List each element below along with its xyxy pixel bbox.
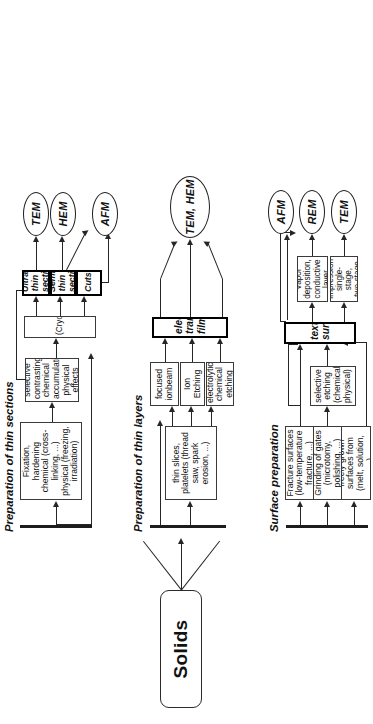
terminal-layers-tem-hem[interactable]: TEM, HEM (170, 176, 210, 238)
ultrathin-to-tem-arrow (33, 236, 39, 242)
textured-to-impression-arrow (341, 302, 347, 308)
node-selective-etching[interactable]: selective etching (chemical, physical) (310, 366, 356, 406)
terminal-surface-rem-label: REM (306, 193, 318, 231)
node-fracture-surfaces[interactable]: Fracture surfaces (low-temperature fract… (285, 426, 315, 500)
terminal-surface-afm[interactable]: AFM (268, 190, 294, 234)
node-focused-ionbeam[interactable]: focused ionbeam (150, 362, 179, 406)
node-impression[interactable]: Impression single-stage, two-stage (330, 256, 358, 302)
terminal-sections-afm-label: AFM (99, 195, 111, 233)
ionbeam-to-films-line (165, 344, 166, 362)
group-rule-sections (20, 525, 92, 528)
surface-fan-freely-arrow (351, 501, 357, 507)
layers-fan-ionbeam-arrow (157, 420, 163, 426)
flowchart-canvas: Solids Surface preparation Preparation o… (0, 0, 373, 724)
terminal-layers-tem-hem-label: TEM, HEM (184, 179, 196, 235)
terminal-sections-afm[interactable]: AFM (92, 192, 118, 236)
fracture-bypass-top-line (288, 344, 289, 406)
surface-fan-freely-line (354, 507, 355, 525)
microtomy-to-cuts-line (84, 302, 85, 316)
group-rule-layers (150, 525, 226, 528)
fracture-direct-arrow (297, 344, 303, 350)
grinding-to-etching-arrow (324, 406, 330, 412)
slices-to-electrolytic-arrow (208, 406, 214, 412)
terminal-sections-tem-label: TEM (30, 195, 42, 233)
node-ion-etching[interactable]: Ion Etching (180, 362, 205, 406)
node-ultra-thin-sections[interactable]: Ultra-thin sections (22, 270, 50, 296)
films-to-temhem-bot-line (222, 279, 223, 317)
node-focused-ionbeam-label: focused ionbeam (155, 365, 174, 403)
microtomy-to-semithin-arrow (57, 296, 63, 302)
node-thin-slices[interactable]: thin slices, platelets (thread saw, spar… (165, 426, 217, 500)
node-electron-transparent-films[interactable]: electron transparent films (152, 317, 228, 338)
node-fixation-hardening[interactable]: Fixation, hardening chemical (cross-link… (20, 422, 82, 500)
terminal-surface-tem[interactable]: TEM (331, 190, 357, 234)
terminal-surface-rem[interactable]: REM (299, 190, 325, 234)
fixation-to-contrasting-arrow (49, 402, 55, 408)
slices-to-ionetching-line (191, 412, 192, 426)
node-textured-surfaces-label: textured surfaces (309, 326, 332, 340)
node-textured-surfaces[interactable]: textured surfaces (284, 322, 356, 344)
textured-afm-line-2 (287, 240, 288, 320)
node-grinding-of-gates[interactable]: Grinding of gates (microtomy, polishing,… (313, 426, 343, 500)
grinding-to-etching-line (327, 412, 328, 426)
terminal-sections-tem[interactable]: TEM (23, 192, 49, 236)
microtomy-to-ultrathin-line (36, 302, 37, 316)
node-selective-contrasting[interactable]: selective contrasting: chemical accumula… (25, 358, 79, 402)
ionetching-to-films-line (192, 344, 193, 362)
impression-to-tem-line (344, 240, 345, 256)
node-electrolytic-etching-label: electrolytic chemical etching (206, 365, 234, 403)
vapor-to-rem-arrow (309, 234, 315, 240)
node-fracture-surfaces-label: Fracture surfaces (low-temperature fract… (286, 429, 315, 497)
ionetching-to-films-arrow (189, 338, 195, 344)
textured-afm-arrow-2 (284, 234, 290, 240)
sections-bypass-line (91, 359, 92, 525)
terminal-sections-hem[interactable]: HEM (50, 192, 76, 236)
node-cryo-ultramicrotomy-label: (Cryo)Ultramicrotomy (55, 319, 64, 335)
node-cryo-ultramicrotomy[interactable]: (Cryo)Ultramicrotomy (24, 316, 96, 338)
sections-fan-fixation-line (56, 507, 57, 525)
node-electron-transparent-films-label: electron transparent films (173, 321, 207, 334)
microtomy-to-semithin-line (60, 302, 61, 316)
semithin-to-hem-arrow (59, 236, 65, 242)
ionbeam-to-films-arrow (162, 338, 168, 344)
terminal-surface-tem-label: TEM (338, 193, 350, 231)
etching-to-textured-arrow (324, 344, 330, 350)
group-label-layers: Preparation of thin layers (132, 395, 144, 532)
textured-afm-arrow (290, 230, 296, 236)
node-cuts-label: Cuts (84, 274, 94, 292)
layers-fan-ionbeam-line (160, 426, 161, 525)
surface-fan-fracture-arrow (297, 501, 303, 507)
microtomy-to-ultrathin-arrow (33, 296, 39, 302)
root-node-solids[interactable]: Solids (160, 590, 202, 708)
sections-fan-fixation-arrow (53, 501, 59, 507)
fracture-direct-line (300, 350, 301, 426)
node-electrolytic-etching[interactable]: electrolytic chemical etching (206, 362, 234, 406)
contrasting-to-microtomy-arrow (53, 338, 59, 344)
node-freely-grown-surfaces[interactable]: freely grown surfaces from (melt, soluti… (341, 426, 371, 500)
surface-fan-grinding-line (327, 507, 328, 525)
etching-to-textured-line (327, 350, 328, 366)
node-vapor-deposition[interactable]: Vapor deposition, conductive layer (297, 256, 328, 302)
films-to-temhem-bot-diag (208, 244, 224, 280)
semithin-to-hem-line (62, 242, 63, 270)
node-semi-thin-sections[interactable]: Semi-thin sections (50, 270, 76, 296)
slices-to-ionbeam-arrow (169, 406, 175, 412)
node-fixation-hardening-label: Fixation, hardening chemical (cross-link… (22, 425, 80, 497)
slices-to-ionbeam-line (172, 412, 173, 426)
diagram-frame: Solids Surface preparation Preparation o… (0, 0, 373, 724)
node-vapor-deposition-label: Vapor deposition, conductive layer (297, 259, 328, 299)
ultrathin-to-tem-line (36, 242, 37, 270)
root-branch-layers-arrow (178, 538, 184, 544)
textured-to-vapor-line (312, 308, 313, 322)
node-thin-slices-label: thin slices, platelets (thread saw, spar… (172, 429, 211, 497)
terminal-sections-hem-label: HEM (57, 195, 69, 233)
root-branch-layers-line (181, 544, 182, 590)
group-label-sections: Preparation of thin sections (3, 381, 15, 532)
semithin-to-afm-diag (66, 232, 86, 270)
node-cuts[interactable]: Cuts (76, 270, 102, 296)
vapor-to-rem-line (312, 240, 313, 256)
contrasting-bypass-line (16, 290, 17, 380)
slices-to-electrolytic-line (211, 412, 212, 426)
slices-to-ionetching-arrow (188, 406, 194, 412)
node-grinding-of-gates-label: Grinding of gates (microtomy, polishing,… (314, 429, 343, 497)
